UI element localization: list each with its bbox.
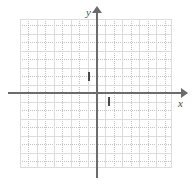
y-axis-arrow-icon [92,6,102,13]
y-axis-label: y [86,7,91,18]
y-axis [96,12,98,178]
x-axis [8,92,182,94]
x-axis-unit-tick [108,97,110,106]
x-axis-label: x [178,98,183,109]
coordinate-plane-figure: 1 1 y x [0,0,193,191]
y-axis-unit-tick [88,72,90,81]
